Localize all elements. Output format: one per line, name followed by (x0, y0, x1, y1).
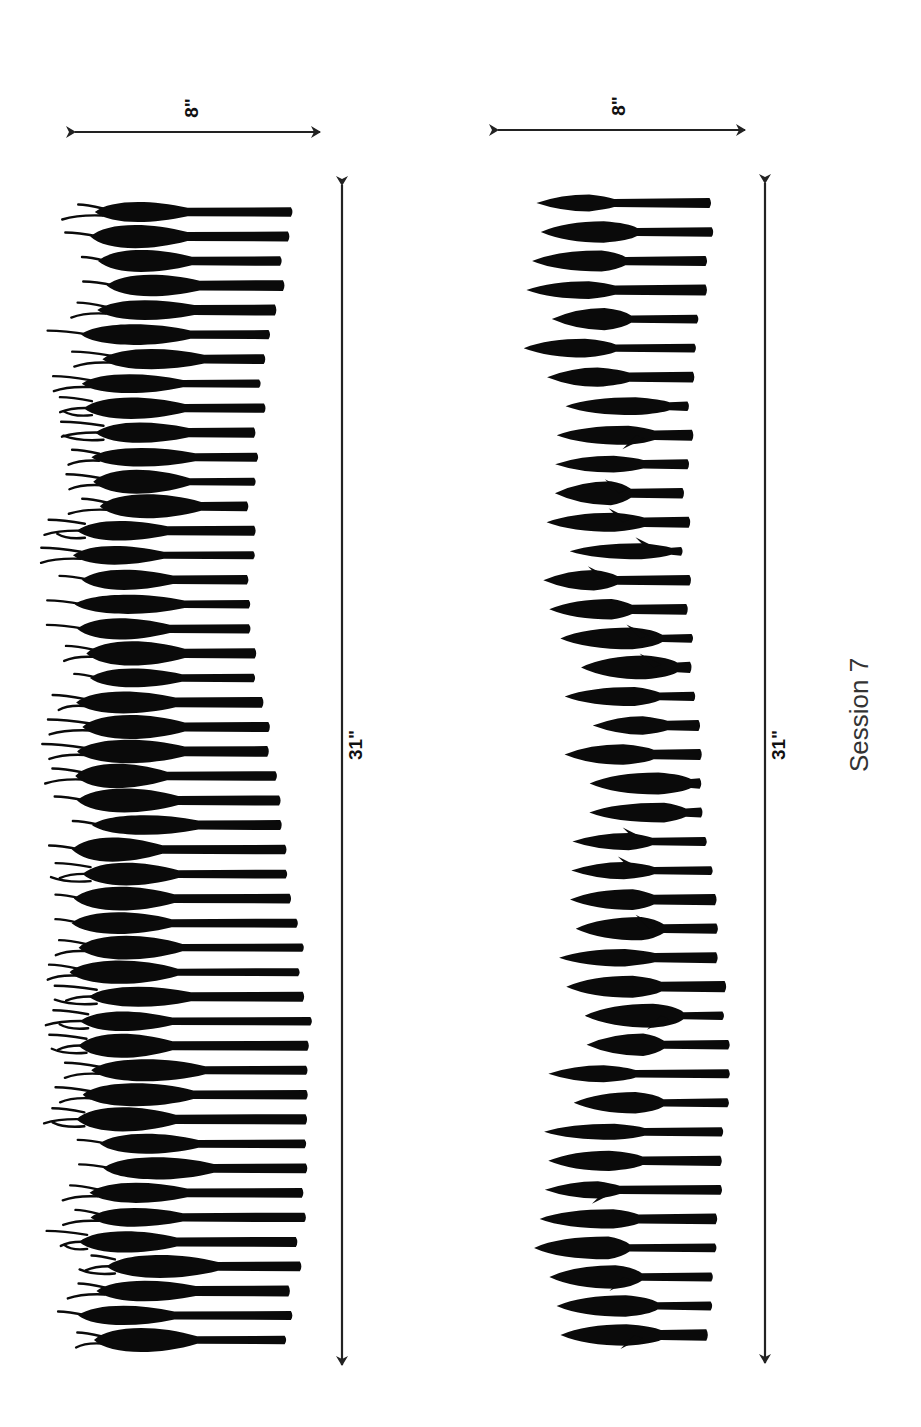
leaf-shape (77, 740, 269, 763)
claw-stroke (47, 1231, 87, 1235)
claw-stroke (77, 1333, 102, 1337)
leaf-shape (77, 789, 281, 813)
leaf-shape (82, 374, 261, 393)
leaf-shape (84, 397, 266, 418)
claw-stroke (56, 895, 82, 899)
leaf-shape (100, 494, 249, 518)
claw-stroke (83, 282, 114, 286)
leaf-shape (76, 691, 263, 713)
claw-stroke (72, 352, 110, 356)
spear-shape (536, 195, 711, 212)
leaf-shape (90, 225, 289, 248)
spear-shape (560, 628, 693, 650)
claw-stroke (58, 1311, 86, 1315)
claw-stroke (65, 1063, 99, 1067)
claw-stroke (48, 331, 90, 335)
leaf-shape (89, 987, 304, 1007)
width-label: 8" (181, 98, 202, 118)
panel-1: 8" 31" (41, 98, 366, 1365)
claw-stroke (82, 257, 106, 261)
claw-stroke (41, 559, 81, 563)
leaf-shape (75, 764, 277, 788)
spear-shape (549, 1265, 712, 1288)
leaf-shape (70, 960, 300, 983)
claw-stroke (65, 233, 98, 237)
leaf-shape (90, 1183, 304, 1203)
claw-stroke (69, 485, 101, 489)
claw-stroke (63, 1196, 98, 1200)
spear-shape (566, 397, 689, 415)
leaf-shape (91, 448, 258, 467)
leaf-shape (78, 1306, 292, 1325)
spear-shape (526, 281, 707, 299)
claw-stroke (75, 1210, 98, 1214)
claw-stroke (68, 1294, 105, 1298)
claw-stroke (51, 877, 91, 882)
session-caption: Session 7 (844, 658, 874, 772)
claw-stroke (49, 965, 78, 969)
claw-stroke (61, 422, 103, 426)
spear-shape (574, 1092, 729, 1113)
claw-stroke (52, 769, 83, 773)
claw-stroke (46, 1021, 88, 1025)
claw-stroke (69, 510, 108, 514)
claw-stroke (55, 986, 97, 990)
claw-stroke (54, 387, 90, 391)
spear-shape (557, 426, 694, 445)
spear-shape (552, 308, 699, 330)
claw-stroke (59, 940, 86, 944)
spear-shape (560, 1324, 707, 1345)
claw-stroke (42, 744, 85, 748)
claw-stroke (92, 1255, 115, 1259)
claw-stroke (59, 706, 84, 710)
leaf-shape (75, 595, 251, 614)
claw-stroke (50, 730, 91, 734)
spear-shape (540, 1209, 718, 1228)
spear-shape (548, 1065, 729, 1082)
claw-stroke (60, 576, 90, 580)
claw-stroke (79, 1164, 111, 1168)
spear-shape (524, 339, 696, 358)
leaf-shape (81, 324, 270, 345)
leaf-shape (72, 837, 287, 861)
claw-stroke (74, 674, 98, 678)
spear-shape (566, 976, 726, 998)
leaf-shape (86, 641, 256, 665)
claw-stroke (71, 313, 105, 317)
leaf-shape (80, 1011, 312, 1031)
spear-shape (590, 773, 702, 795)
claw-stroke (60, 1098, 91, 1102)
spear-shape (559, 949, 718, 967)
leaf-shape (93, 470, 255, 494)
spear-shape (570, 543, 683, 559)
claw-stroke (55, 797, 85, 801)
claw-stroke (52, 1108, 84, 1112)
claw-stroke (41, 548, 81, 552)
claw-stroke (60, 397, 92, 401)
claw-stroke (55, 1000, 97, 1005)
claw-stroke (53, 695, 84, 699)
leaf-shape (76, 1107, 307, 1131)
spear-shape (555, 456, 689, 473)
claw-stroke (56, 951, 87, 955)
claw-stroke (79, 1283, 105, 1287)
leaf-shape (96, 423, 256, 443)
claw-stroke (63, 436, 103, 441)
claw-stroke (66, 646, 94, 650)
claw-stroke (48, 976, 78, 980)
leaf-shape (82, 715, 270, 739)
length-label: 31" (345, 730, 366, 760)
claw-stroke (48, 719, 90, 723)
leaf-shape (83, 1083, 308, 1106)
leaf-shape (77, 521, 256, 541)
leaf-shape (95, 202, 293, 222)
claw-stroke (70, 1185, 97, 1189)
claw-stroke (64, 411, 92, 416)
leaf-shape (97, 300, 276, 320)
leaf-shape (77, 618, 250, 639)
claw-stroke (53, 376, 90, 380)
spear-shape (555, 481, 684, 505)
spear-shape (589, 803, 702, 823)
claw-stroke (73, 821, 100, 825)
spear-shape (548, 1151, 721, 1171)
